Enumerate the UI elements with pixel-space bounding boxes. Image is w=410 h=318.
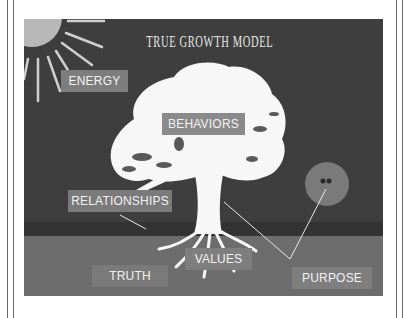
growth-model-slide: TRUE GROWTH MODEL ENERGY BEHAVIORS RELAT… (24, 19, 383, 296)
right-border-line-outer (402, 0, 403, 318)
slide-title: TRUE GROWTH MODEL (98, 32, 321, 52)
label-purpose: PURPOSE (292, 267, 372, 289)
label-energy: ENERGY (61, 70, 128, 92)
left-border-line-outer (7, 0, 8, 318)
seed-icon (305, 162, 349, 206)
tree-icon (111, 62, 286, 277)
label-values: VALUES (185, 248, 252, 270)
label-behaviors: BEHAVIORS (162, 113, 245, 135)
left-border-line-inner (13, 0, 14, 318)
label-truth: TRUTH (92, 265, 168, 287)
right-border-line-inner (396, 0, 397, 318)
label-relationships: RELATIONSHIPS (68, 190, 172, 212)
